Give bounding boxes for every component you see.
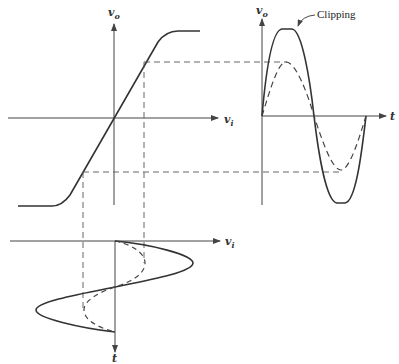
output-y-label: vo	[256, 4, 268, 19]
clipping-arrow	[298, 15, 315, 26]
transfer-y-label: vo	[108, 6, 120, 21]
diagram: vo vi vo t Clipping vi t	[0, 0, 399, 364]
transfer-x-label: vi	[224, 113, 233, 128]
diagram-canvas: vo vi vo t Clipping vi t	[0, 0, 399, 364]
input-t-label: t	[112, 352, 117, 364]
input-x-label: vi	[225, 235, 234, 250]
output-t-label: t	[390, 110, 395, 123]
clipping-annotation: Clipping	[317, 8, 356, 20]
